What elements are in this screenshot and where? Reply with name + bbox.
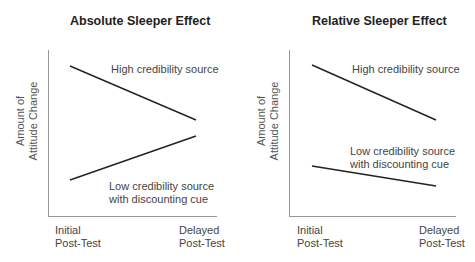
- absolute-y-axis-label: Amount of Attitude Change: [14, 76, 40, 166]
- relative-x-label-initial: Initial Post-Test: [297, 224, 343, 250]
- absolute-x-label-initial: Initial Post-Test: [55, 224, 101, 250]
- y-label-line2: Attitude Change: [268, 76, 281, 166]
- y-label-line1: Amount of: [14, 76, 27, 166]
- y-label-line2: Attitude Change: [27, 76, 40, 166]
- absolute-low-label: Low credibility source with discounting …: [109, 180, 214, 206]
- relative-y-axis-label: Amount of Attitude Change: [255, 76, 281, 166]
- x-left-line2: Post-Test: [297, 237, 343, 250]
- low-label-line2: with discounting cue: [350, 158, 455, 171]
- x-right-line1: Delayed: [179, 224, 225, 237]
- low-label-line1: Low credibility source: [109, 180, 214, 193]
- x-left-line1: Initial: [297, 224, 343, 237]
- absolute-x-label-delayed: Delayed Post-Test: [179, 224, 225, 250]
- y-label-line1: Amount of: [255, 76, 268, 166]
- chart-lines: [0, 0, 475, 262]
- x-left-line2: Post-Test: [55, 237, 101, 250]
- relative-low-label: Low credibility source with discounting …: [350, 145, 455, 171]
- absolute-high-label: High credibility source: [111, 63, 219, 76]
- relative-chart-title: Relative Sleeper Effect: [312, 14, 447, 28]
- absolute-low-credibility-line: [70, 136, 196, 180]
- x-right-line1: Delayed: [419, 224, 465, 237]
- absolute-chart-title: Absolute Sleeper Effect: [70, 14, 210, 28]
- relative-x-label-delayed: Delayed Post-Test: [419, 224, 465, 250]
- low-label-line1: Low credibility source: [350, 145, 455, 158]
- x-left-line1: Initial: [55, 224, 101, 237]
- x-right-line2: Post-Test: [179, 237, 225, 250]
- low-label-line2: with discounting cue: [109, 193, 214, 206]
- x-right-line2: Post-Test: [419, 237, 465, 250]
- relative-high-label: High credibility source: [352, 63, 460, 76]
